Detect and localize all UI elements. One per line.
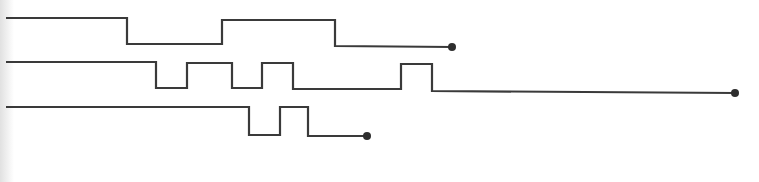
signal-1-end-dot <box>448 43 456 51</box>
signal-1-waveform <box>6 18 456 51</box>
signal-1-line <box>6 18 452 47</box>
signal-3-end-dot <box>363 132 371 140</box>
signal-2-line <box>6 62 735 93</box>
signal-2-waveform <box>6 62 739 97</box>
signal-2-end-dot <box>731 89 739 97</box>
signal-3-waveform <box>6 107 371 140</box>
signal-3-line <box>6 107 367 136</box>
timing-diagram <box>0 0 759 182</box>
